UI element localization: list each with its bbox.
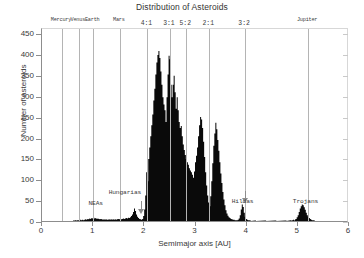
x-tick-mark (297, 222, 298, 226)
y-tick-label: 0 (0, 217, 34, 226)
y-tick-label: 400 (0, 50, 34, 59)
resonance-label-4-1: 4:1 (141, 20, 153, 27)
resonance-label-2-1: 2:1 (203, 20, 215, 27)
reference-line-2-1 (209, 29, 210, 221)
y-tick-mark (36, 97, 41, 98)
y-tick-mark (36, 159, 41, 160)
y-tick-label: 250 (0, 113, 34, 122)
x-tick-mark (41, 222, 42, 226)
y-tick-mark-right (343, 97, 348, 98)
histogram-series (42, 29, 347, 221)
group-label-hildas: Hildas (232, 198, 254, 205)
x-axis-label: Semimajor axis [AU] (41, 239, 348, 248)
x-tick-label: 5 (295, 226, 299, 235)
y-tick-label: 450 (0, 29, 34, 38)
y-tick-label: 150 (0, 154, 34, 163)
x-tick-mark (246, 222, 247, 226)
x-tick-label: 0 (39, 226, 43, 235)
asteroid-distribution-figure: Distribution of Asteroids NEAsHungariasH… (0, 0, 364, 258)
resonance-label-3-1: 3:1 (163, 20, 175, 27)
planet-label-earth: Earth (85, 17, 100, 23)
y-tick-mark (36, 139, 41, 140)
y-tick-mark-right (343, 76, 348, 77)
reference-line-mercury (62, 29, 63, 221)
x-tick-label: 6 (346, 226, 350, 235)
x-tick-mark (92, 222, 93, 226)
y-tick-mark-right (343, 180, 348, 181)
x-tick-label: 2 (141, 226, 145, 235)
group-label-neas: NEAs (88, 200, 102, 207)
x-tick-label: 1 (90, 226, 94, 235)
planet-label-venus: Venus (71, 17, 86, 23)
y-tick-mark (36, 118, 41, 119)
reference-line-venus (79, 29, 80, 221)
plot-area: NEAsHungariasHildasTrojans (41, 28, 348, 222)
x-tick-label: 4 (243, 226, 247, 235)
reference-line-5-2 (186, 29, 187, 221)
y-tick-mark-right (343, 55, 348, 56)
y-tick-mark (36, 55, 41, 56)
reference-line-earth (93, 29, 94, 221)
y-axis-label: Number of asteroids (19, 26, 28, 176)
planet-label-mercury: Mercury (51, 17, 71, 23)
y-tick-label: 100 (0, 175, 34, 184)
resonance-label-5-2: 5:2 (180, 20, 192, 27)
y-tick-mark (36, 201, 41, 202)
y-tick-mark-right (343, 118, 348, 119)
y-tick-mark (36, 180, 41, 181)
y-tick-mark-right (343, 139, 348, 140)
reference-line-jupiter (308, 29, 309, 221)
y-tick-label: 200 (0, 134, 34, 143)
y-tick-mark-right (343, 159, 348, 160)
reference-line-4-1 (147, 29, 148, 221)
x-tick-mark (348, 222, 349, 226)
x-tick-mark (143, 222, 144, 226)
y-tick-mark (36, 76, 41, 77)
planet-label-mars: Mars (113, 17, 125, 23)
resonance-label-3-2: 3:2 (238, 20, 250, 27)
y-tick-label: 50 (0, 196, 34, 205)
page-title: Distribution of Asteroids (0, 2, 364, 12)
y-tick-label: 350 (0, 71, 34, 80)
group-label-trojans: Trojans (293, 198, 318, 205)
reference-line-3-1 (170, 29, 171, 221)
planet-label-jupiter: Jupiter (297, 17, 317, 23)
reference-line-3-2 (245, 29, 246, 221)
y-tick-mark-right (343, 34, 348, 35)
y-tick-mark-right (343, 201, 348, 202)
y-tick-mark (36, 34, 41, 35)
group-label-hungarias: Hungarias (109, 189, 142, 196)
y-tick-label: 300 (0, 92, 34, 101)
x-tick-mark (195, 222, 196, 226)
x-tick-label: 3 (192, 226, 196, 235)
